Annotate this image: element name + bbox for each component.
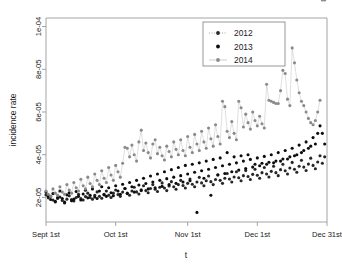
- data-point: [154, 186, 157, 189]
- data-point: [256, 124, 259, 127]
- data-point: [126, 192, 129, 195]
- data-point: [237, 169, 240, 172]
- data-point: [79, 178, 82, 181]
- legend-label-2012[interactable]: 2012: [234, 28, 253, 38]
- data-point: [305, 140, 308, 143]
- data-point: [156, 152, 159, 155]
- data-point: [77, 195, 80, 198]
- data-point: [191, 183, 194, 186]
- data-point: [244, 167, 247, 170]
- data-point: [54, 200, 57, 203]
- data-point: [300, 100, 303, 103]
- data-point: [151, 142, 154, 145]
- data-point: [112, 194, 115, 197]
- data-point: [91, 198, 94, 201]
- chart-legend[interactable]: 201220132014: [203, 22, 285, 66]
- data-point: [228, 163, 231, 166]
- data-point: [223, 105, 226, 108]
- data-point: [161, 154, 164, 157]
- data-point: [288, 166, 291, 169]
- data-point: [191, 163, 194, 166]
- data-point: [149, 156, 152, 159]
- data-point: [260, 171, 263, 174]
- data-point: [168, 183, 171, 186]
- data-point: [116, 170, 119, 173]
- data-point: [200, 181, 203, 184]
- x-tick-label: Dec 1st: [244, 230, 271, 239]
- data-point: [270, 153, 273, 156]
- data-point: [105, 189, 108, 192]
- data-point: [56, 194, 59, 197]
- data-point: [318, 124, 321, 127]
- data-point: [307, 117, 310, 120]
- data-point: [226, 151, 229, 154]
- data-point: [163, 170, 166, 173]
- data-point: [323, 142, 326, 145]
- data-point: [58, 185, 61, 188]
- data-point: [98, 189, 101, 192]
- data-point: [233, 155, 236, 158]
- data-point: [98, 183, 101, 186]
- legend-label-2014[interactable]: 2014: [234, 55, 253, 65]
- x-tick-label: Oct 1st: [104, 230, 129, 239]
- data-point: [321, 162, 324, 165]
- data-point: [179, 138, 182, 141]
- data-point: [277, 151, 280, 154]
- data-point: [184, 164, 187, 167]
- data-point: [121, 162, 124, 165]
- data-point: [181, 181, 184, 184]
- data-point: [309, 121, 312, 124]
- data-point: [181, 184, 184, 187]
- data-point: [144, 182, 147, 185]
- data-point: [300, 159, 303, 162]
- incidence-rate-scatter-plot: 2e-054e-056e-058e-051e-04 Sept 1stOct 1s…: [0, 0, 342, 267]
- data-point: [135, 179, 138, 182]
- data-point: [188, 179, 191, 182]
- data-point: [184, 154, 187, 157]
- data-point: [312, 136, 315, 139]
- data-point: [233, 132, 236, 135]
- data-point: [158, 179, 161, 182]
- data-point: [251, 173, 254, 176]
- y-tick-label: 4e-05: [34, 145, 43, 164]
- data-point: [288, 155, 291, 158]
- data-point: [82, 184, 85, 187]
- data-point: [307, 147, 310, 150]
- data-point: [258, 177, 261, 180]
- legend-label-2013[interactable]: 2013: [234, 42, 253, 52]
- data-point: [114, 164, 117, 167]
- data-point: [298, 165, 301, 168]
- data-point: [274, 171, 277, 174]
- data-point: [209, 137, 212, 140]
- data-point: [142, 184, 145, 187]
- data-point: [137, 192, 140, 195]
- data-point: [312, 123, 315, 126]
- data-point: [302, 166, 305, 169]
- data-point: [184, 186, 187, 189]
- data-point: [216, 173, 219, 176]
- data-point: [165, 189, 168, 192]
- data-point: [84, 187, 87, 190]
- data-point: [200, 130, 203, 133]
- data-point: [181, 149, 184, 152]
- data-point: [121, 191, 124, 194]
- data-point: [307, 163, 310, 166]
- data-point: [237, 176, 240, 179]
- data-point: [293, 61, 296, 64]
- data-point: [281, 163, 284, 166]
- data-point: [209, 180, 212, 183]
- data-point: [147, 187, 150, 190]
- data-point: [86, 196, 89, 199]
- legend-marker-2012: [216, 31, 220, 35]
- data-point: [51, 187, 54, 190]
- y-tick-label: 1e-04: [34, 17, 43, 36]
- data-point: [198, 176, 201, 179]
- data-point: [251, 166, 254, 169]
- y-tick-label: 6e-05: [34, 102, 43, 121]
- data-point: [246, 121, 249, 124]
- data-point: [253, 168, 256, 171]
- data-point: [249, 158, 252, 161]
- data-point: [168, 150, 171, 153]
- legend-marker-2014: [216, 58, 220, 62]
- data-point: [240, 154, 243, 157]
